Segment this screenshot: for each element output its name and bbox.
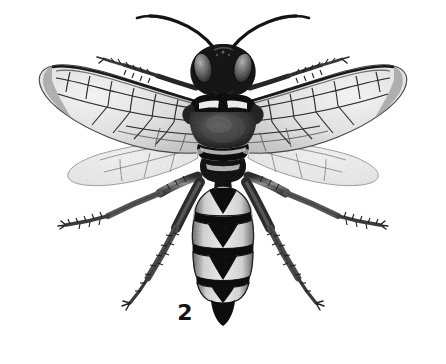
head [190, 44, 255, 97]
abdomen-segment-3 [193, 252, 253, 281]
figure-plate: 2 [0, 0, 446, 364]
figure-number-label: 2 [160, 300, 210, 326]
wasp-illustration [0, 0, 446, 364]
abdomen-segment-2 [192, 220, 253, 249]
